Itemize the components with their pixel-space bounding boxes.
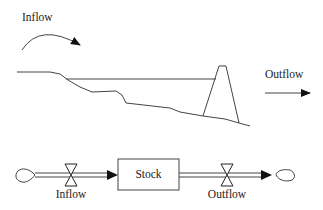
stock-label: Stock [135,168,161,180]
illustration-outflow-label: Outflow [265,68,304,80]
stock-flow-notation: Inflow Stock Outflow [16,159,295,200]
stock-flow-diagram: Inflow Outflow Inflow Stock [0,0,323,210]
curved-inflow-arrow-icon [22,35,80,50]
illustration-inflow-label: Inflow [22,11,53,23]
terrain-profile [17,72,250,126]
outflow-valve-label: Outflow [208,188,247,200]
dam-shape [203,66,239,123]
outflow-arrowhead-icon [261,170,272,180]
inflow-valve-label: Inflow [56,188,87,200]
inflow-arrowhead-icon [107,170,118,180]
sink-cloud-icon [276,170,294,181]
inflow-valve-icon [65,164,77,186]
inflow-pipe [35,170,118,180]
source-cloud-icon [16,169,35,182]
outflow-valve-icon [221,164,233,186]
reservoir-illustration: Inflow Outflow [17,11,310,126]
